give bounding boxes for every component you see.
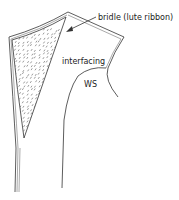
hatch-mark	[63, 114, 64, 116]
hatch-mark	[31, 65, 32, 67]
hatch-mark	[52, 117, 53, 119]
hatch-mark	[46, 61, 47, 63]
hatch-mark	[43, 72, 44, 74]
hatch-mark	[56, 120, 57, 122]
hatch-mark	[39, 101, 40, 103]
hatch-mark	[18, 130, 19, 132]
hatch-mark	[52, 78, 53, 80]
hatch-mark	[56, 30, 57, 32]
hatch-mark	[47, 81, 48, 83]
hatch-mark	[32, 57, 33, 59]
hatch-mark	[27, 108, 28, 110]
hatch-mark	[32, 104, 33, 106]
hatch-mark	[40, 38, 41, 40]
hatch-mark	[47, 29, 48, 31]
hatch-mark	[55, 94, 56, 96]
hatch-mark	[62, 106, 63, 108]
hatch-mark	[43, 33, 44, 35]
hatch-mark	[51, 93, 52, 95]
hatch-mark	[43, 42, 44, 44]
hatch-mark	[36, 138, 37, 140]
hatch-mark	[36, 94, 37, 96]
hatch-mark	[35, 69, 36, 71]
hatch-mark	[62, 102, 63, 104]
arrow-head-icon	[66, 26, 73, 32]
hatch-mark	[23, 42, 24, 44]
hatch-mark	[34, 53, 35, 55]
hatch-mark	[39, 110, 40, 112]
hatch-mark	[19, 78, 20, 80]
hatch-mark	[47, 53, 48, 55]
hatch-mark	[47, 113, 48, 115]
hatch-mark	[35, 133, 36, 135]
hatch-mark	[47, 116, 48, 118]
hatch-mark	[28, 69, 29, 71]
hatch-mark	[14, 49, 15, 51]
hatch-mark	[31, 112, 32, 114]
hatch-mark	[47, 65, 48, 67]
interfacing-texture	[10, 28, 69, 140]
hatch-mark	[66, 86, 67, 88]
hatch-mark	[35, 122, 36, 124]
hatch-mark	[51, 88, 52, 90]
hatch-mark	[51, 46, 52, 48]
hatch-mark	[28, 117, 29, 119]
hatch-mark	[27, 61, 28, 63]
hatch-mark	[22, 93, 23, 95]
hatch-mark	[47, 97, 48, 99]
hatch-mark	[66, 121, 67, 123]
hatch-mark	[42, 122, 43, 124]
hatch-mark	[19, 61, 20, 63]
hatch-mark	[54, 105, 55, 107]
hatch-mark	[43, 45, 44, 47]
hatch-mark	[43, 53, 44, 55]
hatch-mark	[19, 53, 20, 55]
hatch-mark	[43, 132, 44, 134]
hatch-mark	[59, 133, 60, 135]
hatch-mark	[55, 72, 56, 74]
hatch-mark	[43, 109, 44, 111]
hatch-mark	[27, 121, 28, 123]
hatch-mark	[55, 68, 56, 70]
hatch-mark	[27, 101, 28, 103]
hatch-mark	[43, 104, 44, 106]
hatch-mark	[22, 110, 23, 112]
hatch-mark	[59, 77, 60, 79]
hatch-mark	[18, 117, 19, 119]
hatch-mark	[62, 53, 63, 55]
hatch-mark	[64, 77, 65, 79]
hatch-mark	[28, 44, 29, 46]
hatch-mark	[46, 85, 47, 87]
hatch-mark	[39, 85, 40, 87]
garment-diagram: bridle (lute ribbon) interfacing WS	[0, 0, 179, 200]
hatch-mark	[55, 78, 56, 80]
hatch-mark	[43, 100, 44, 102]
hatch-mark	[27, 94, 28, 96]
hatch-mark	[67, 50, 68, 52]
hatch-mark	[43, 93, 44, 95]
hatch-mark	[23, 61, 24, 63]
hatch-mark	[11, 113, 12, 115]
hatch-mark	[36, 62, 37, 64]
hatch-mark	[34, 86, 35, 88]
hatch-mark	[30, 42, 31, 44]
hatch-mark	[40, 106, 41, 108]
hatch-mark	[59, 45, 60, 47]
hatch-mark	[43, 85, 44, 87]
hatch-mark	[60, 50, 61, 52]
hatch-mark	[34, 130, 35, 132]
hatch-mark	[34, 34, 35, 36]
hatch-mark	[59, 102, 60, 104]
bridle-pointer	[66, 17, 96, 32]
hatch-mark	[55, 125, 56, 127]
hatch-mark	[19, 85, 20, 87]
hatch-mark	[47, 56, 48, 58]
hatch-mark	[24, 125, 25, 127]
hatch-mark	[51, 70, 52, 72]
hatch-mark	[43, 65, 44, 67]
hatch-mark	[44, 136, 45, 138]
hatch-mark	[44, 50, 45, 52]
hatch-mark	[35, 97, 36, 99]
hatch-mark	[31, 121, 32, 123]
hatch-mark	[63, 108, 64, 110]
